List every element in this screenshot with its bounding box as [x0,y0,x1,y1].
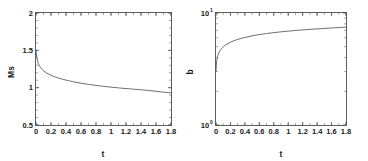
right-y-axis-label: b [185,69,195,74]
right-x-axis-label: t [280,149,283,159]
right-y-tick-labels: 100101 [201,7,213,130]
chart-panel-right: 00.20.40.60.811.21.41.61.8 100101 t b [184,0,368,161]
x-tick-label: 0.2 [46,127,56,136]
x-tick-label: 1.8 [166,127,176,136]
x-tick-label: 1.6 [151,127,161,136]
left-minor-ticks [36,13,171,125]
right-data-curve [216,27,346,71]
svg-text:10: 10 [201,121,209,130]
x-tick-label: 1.6 [326,127,336,136]
x-tick-label: 0 [34,127,38,136]
y-tick-label: 2 [29,9,33,18]
chart-left-svg: 00.20.40.60.811.21.41.61.8 0.511.52 t Ms [0,0,184,161]
x-tick-label: 0.6 [254,127,264,136]
svg-text:10: 10 [201,9,209,18]
x-tick-label: 0.6 [76,127,86,136]
left-data-curve [36,50,171,93]
chart-panel-left: 00.20.40.60.811.21.41.61.8 0.511.52 t Ms [0,0,184,161]
x-tick-label: 1.8 [341,127,351,136]
svg-text:1: 1 [210,7,213,13]
right-minor-ticks [216,13,346,125]
x-tick-label: 0.8 [269,127,279,136]
x-tick-label: 1.2 [121,127,131,136]
two-panel-figure: 00.20.40.60.811.21.41.61.8 0.511.52 t Ms… [0,0,368,161]
left-x-axis-label: t [102,149,105,159]
chart-right-svg: 00.20.40.60.811.21.41.61.8 100101 t b [184,0,368,161]
x-tick-label: 1 [109,127,113,136]
left-tick-marks [36,13,171,125]
x-tick-label: 1.4 [312,127,323,136]
x-tick-label: 0.8 [91,127,101,136]
y-tick-label: 0.5 [23,121,33,130]
right-plot-frame [216,13,347,126]
left-y-tick-labels: 0.511.52 [23,9,33,130]
x-tick-label: 0 [214,127,218,136]
y-tick-label: 1 [29,83,33,92]
x-tick-label: 1 [286,127,290,136]
x-tick-label: 1.2 [297,127,307,136]
x-tick-label: 0.4 [240,127,251,136]
y-tick-label: 100 [201,119,213,130]
right-tick-marks [216,13,346,125]
left-y-axis-label: Ms [6,66,16,78]
right-x-tick-labels: 00.20.40.60.811.21.41.61.8 [214,127,351,136]
svg-text:0: 0 [210,119,213,125]
y-tick-label: 1.5 [23,46,33,55]
y-tick-label: 101 [201,7,213,18]
x-tick-label: 0.2 [225,127,235,136]
left-x-tick-labels: 00.20.40.60.811.21.41.61.8 [34,127,176,136]
left-plot-frame [36,13,172,126]
x-tick-label: 0.4 [61,127,72,136]
x-tick-label: 1.4 [136,127,147,136]
